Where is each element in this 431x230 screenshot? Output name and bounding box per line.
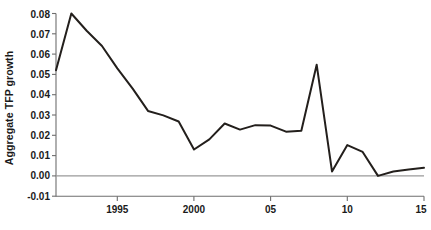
y-tick-label: 0.00: [31, 170, 51, 181]
y-tick-label: 0.05: [31, 69, 51, 80]
y-tick-label: 0.07: [31, 29, 51, 40]
x-tick-label: 1995: [106, 204, 129, 215]
x-tick-label: 15: [415, 204, 427, 215]
tfp-growth-line-chart: Aggregate TFP growth 0.08 0.07 0.06 0.05…: [0, 0, 431, 230]
y-tick-label: 0.01: [31, 150, 51, 161]
chart-canvas: Aggregate TFP growth 0.08 0.07 0.06 0.05…: [0, 0, 431, 230]
y-tick-label: 0.06: [31, 49, 51, 60]
x-tick-label: 05: [265, 204, 277, 215]
y-tick-label: 0.02: [31, 130, 51, 141]
x-tick-label: 10: [342, 204, 354, 215]
y-tick-label: 0.04: [31, 89, 51, 100]
y-axis-label: Aggregate TFP growth: [3, 51, 15, 165]
y-tick-label: -0.01: [27, 191, 50, 202]
y-tick-label: 0.03: [31, 110, 51, 121]
x-tick-label: 2000: [183, 204, 206, 215]
y-tick-label: 0.08: [31, 9, 51, 20]
